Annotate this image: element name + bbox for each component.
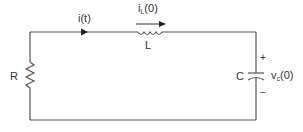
resistor-label: R xyxy=(10,71,18,82)
inductor-current-tail: (0) xyxy=(144,2,157,14)
current-label: i(t) xyxy=(78,13,91,24)
inductor-current-label: iL(0) xyxy=(138,3,158,14)
resistor-zigzag xyxy=(26,62,34,88)
inductor-current-arrowhead-icon xyxy=(159,21,166,27)
capacitor-label: C xyxy=(236,71,244,82)
capacitor-voltage-label: vc(0) xyxy=(271,70,293,81)
plus-sign: + xyxy=(260,53,266,63)
current-arrow-icon xyxy=(81,29,88,36)
minus-sign: − xyxy=(260,88,266,98)
circuit-schematic xyxy=(0,0,303,132)
capacitor-voltage-tail: (0) xyxy=(280,69,293,81)
rlc-circuit-diagram: i(t) iL(0) L R C + − vc(0) xyxy=(0,0,303,132)
inductor-label: L xyxy=(145,40,151,51)
inductor-current-subscript: L xyxy=(140,8,144,15)
capacitor-voltage-main: v xyxy=(271,69,277,81)
capacitor-voltage-subscript: c xyxy=(277,75,281,82)
inductor-coil xyxy=(138,32,162,35)
